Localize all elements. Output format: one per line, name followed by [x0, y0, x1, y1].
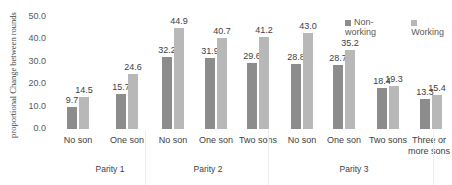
bar-non-working [420, 99, 430, 129]
legend-swatch-icon [345, 20, 351, 26]
legend-item-nonworking: Non-working [345, 17, 403, 37]
bar-non-working [247, 63, 257, 129]
bar-non-working [67, 107, 77, 129]
y-tick-label: 20.0 [24, 78, 46, 88]
group-separator [268, 130, 269, 185]
category-label: Three ormore sons [403, 135, 452, 157]
legend-swatch-icon [411, 20, 417, 26]
legend: Non-working Working [345, 17, 452, 37]
group-label-parity-1: Parity 1 [80, 164, 140, 174]
y-tick-label: 50.0 [24, 11, 46, 21]
y-tick-label: 10.0 [24, 101, 46, 111]
group-label-parity-3: Parity 3 [324, 164, 384, 174]
value-label: 19.3 [379, 74, 409, 84]
value-label: 40.7 [207, 26, 237, 36]
value-label: 15.4 [422, 83, 452, 93]
legend-item-working: Working [411, 17, 452, 37]
y-tick-label: 0.0 [24, 123, 46, 133]
bar-working [79, 97, 89, 129]
group-label-parity-2: Parity 2 [178, 164, 238, 174]
bar-working [259, 37, 269, 129]
bar-non-working [205, 58, 215, 129]
bar-working [128, 74, 138, 129]
value-label: 44.9 [164, 16, 194, 26]
value-label: 43.0 [293, 21, 323, 31]
group-separator [433, 130, 434, 185]
bar-working [432, 95, 442, 129]
bar-non-working [162, 57, 172, 129]
y-tick-label: 40.0 [24, 33, 46, 43]
group-separator [145, 130, 146, 185]
y-tick-label: 30.0 [24, 56, 46, 66]
bar-working [217, 38, 227, 129]
bar-working [303, 33, 313, 129]
value-label: 41.2 [249, 25, 279, 35]
bar-non-working [333, 65, 343, 129]
bar-working [174, 28, 184, 129]
bar-working [345, 50, 355, 129]
category-label: No son [50, 135, 106, 146]
value-label: 35.2 [335, 38, 365, 48]
bar-non-working [291, 64, 301, 129]
bar-non-working [116, 94, 126, 129]
value-label: 24.6 [118, 62, 148, 72]
value-label: 14.5 [69, 85, 99, 95]
bar-working [389, 86, 399, 129]
bar-non-working [377, 88, 387, 129]
y-axis-label: proportional Change between rounds [8, 10, 18, 140]
